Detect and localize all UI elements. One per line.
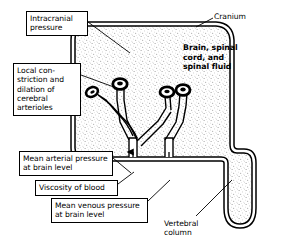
label-mean-venous-pressure: Mean venous pressure at brain level bbox=[51, 198, 148, 223]
figure-root: Intracranial pressure Local con- stricti… bbox=[0, 0, 283, 252]
leader-venous bbox=[148, 180, 170, 201]
label-vertebral-column: Vertebral column bbox=[164, 219, 198, 238]
leader-viscosity bbox=[118, 172, 134, 184]
label-cranium: Cranium bbox=[214, 12, 246, 21]
label-mean-arterial-pressure: Mean arterial pressure at brain level bbox=[19, 151, 113, 176]
label-brain-contents: Brain, spinal cord, and spinal fluid bbox=[183, 43, 238, 72]
arterial-trunk bbox=[129, 138, 137, 192]
label-viscosity-of-blood: Viscosity of blood bbox=[35, 180, 118, 196]
leader-vertebral bbox=[196, 180, 232, 216]
label-intracranial-pressure: Intracranial pressure bbox=[26, 11, 88, 36]
label-local-constriction: Local con- striction and dilation of cer… bbox=[13, 63, 81, 116]
